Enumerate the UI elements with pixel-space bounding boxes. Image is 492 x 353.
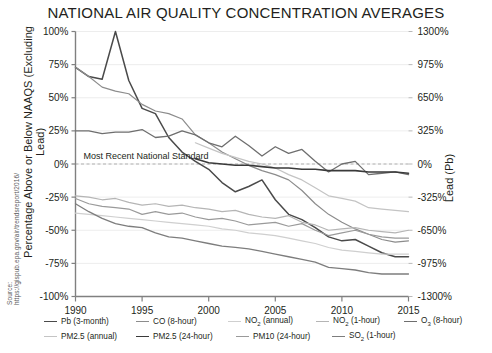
y-tick-label-left: 50% (48, 92, 68, 103)
legend-swatch (332, 336, 345, 337)
legend-label: SO2 (1-hour) (349, 331, 396, 342)
legend-item[interactable]: NO2 (1-hour) (316, 316, 404, 327)
legend-label: NO2 (1-hour) (333, 316, 380, 327)
y-tick-label-left: 75% (48, 59, 68, 70)
legend-swatch (136, 321, 149, 322)
series-line (195, 143, 408, 212)
y-tick-label-left: -100% (40, 291, 69, 302)
legend-swatch (44, 336, 57, 337)
series-line (76, 196, 409, 233)
y-tick-label-left: 100% (43, 26, 69, 37)
y-tick-label-right: -325% (418, 192, 447, 203)
y-tick-label-right: -975% (418, 258, 447, 269)
legend-swatch (236, 336, 249, 337)
chart-root: NATIONAL AIR QUALITY CONCENTRATION AVERA… (0, 0, 492, 353)
legend-item[interactable]: SO2 (1-hour) (332, 331, 412, 342)
legend-swatch (136, 336, 149, 337)
y-tick-label-right: -1300% (418, 291, 453, 302)
series-line (195, 159, 408, 174)
legend-item[interactable]: CO (8-hour) (136, 317, 228, 326)
y-tick-label-left: -25% (45, 192, 68, 203)
y-tick-label-left: -50% (45, 225, 68, 236)
y-tick-label-right: 650% (418, 92, 444, 103)
y-tick-label-right: 0% (418, 159, 433, 170)
chart-plot-area: 100%75%50%25%0%-25%-50%-75%-100%1300%975… (0, 0, 492, 353)
legend-row-2: PM2.5 (annual)PM2.5 (24-hour)PM10 (24-ho… (0, 329, 492, 344)
y-tick-label-right: 325% (418, 125, 444, 136)
legend-label: O3 (8-hour) (421, 316, 462, 327)
legend-item[interactable]: NO2 (annual) (228, 316, 316, 327)
standard-annotation-label: Most Recent National Standard (84, 151, 209, 161)
legend-item[interactable]: PM2.5 (annual) (44, 332, 136, 341)
legend-label: NO2 (annual) (245, 316, 293, 327)
legend-item[interactable]: PM2.5 (24-hour) (136, 332, 236, 341)
y-tick-label-right: 975% (418, 59, 444, 70)
chart-legend: Pb (3-month)CO (8-hour)NO2 (annual)NO2 (… (0, 314, 492, 344)
legend-swatch (228, 321, 241, 322)
legend-item[interactable]: Pb (3-month) (44, 317, 136, 326)
legend-swatch (316, 321, 329, 322)
legend-label: CO (8-hour) (153, 317, 197, 326)
legend-row-1: Pb (3-month)CO (8-hour)NO2 (annual)NO2 (… (0, 314, 492, 329)
y-tick-label-right: 1300% (418, 26, 449, 37)
legend-label: PM10 (24-hour) (253, 332, 310, 341)
legend-item[interactable]: O3 (8-hour) (404, 316, 474, 327)
legend-swatch (44, 321, 57, 322)
legend-label: Pb (3-month) (61, 317, 109, 326)
legend-swatch (404, 321, 417, 322)
legend-item[interactable]: PM10 (24-hour) (236, 332, 332, 341)
y-tick-label-left: 0% (54, 159, 69, 170)
y-tick-label-left: -75% (45, 258, 68, 269)
y-tick-label-left: 25% (48, 125, 68, 136)
legend-label: PM2.5 (24-hour) (153, 332, 213, 341)
legend-label: PM2.5 (annual) (61, 332, 117, 341)
y-tick-label-right: -650% (418, 225, 447, 236)
